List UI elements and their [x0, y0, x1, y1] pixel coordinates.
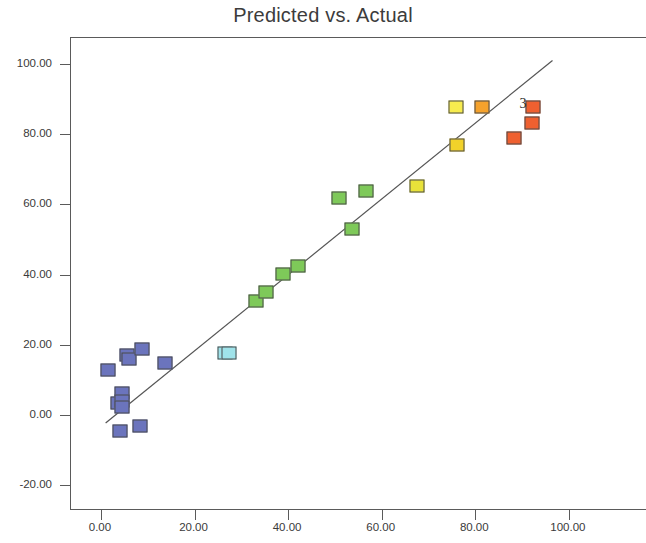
chart-root: Predicted vs. Actual -20.000.0020.0040.0…	[0, 0, 646, 543]
x-axis-tick	[475, 509, 476, 520]
y-axis-tick-label: -20.00	[19, 478, 52, 490]
data-point-marker[interactable]	[158, 356, 173, 369]
plot-area: 3	[70, 37, 646, 510]
data-point-marker[interactable]	[221, 347, 236, 360]
y-axis-tick	[60, 204, 71, 205]
data-point-marker[interactable]	[134, 342, 149, 355]
x-axis-tick	[382, 509, 383, 520]
x-axis-tick-label: 60.00	[366, 521, 395, 533]
data-point-marker[interactable]	[291, 260, 306, 273]
y-axis-tick	[60, 485, 71, 486]
data-point-marker[interactable]	[259, 286, 274, 299]
y-axis-tick	[60, 345, 71, 346]
y-axis-tick-label: 20.00	[23, 338, 52, 350]
data-point-marker[interactable]	[524, 116, 539, 129]
y-axis-tick	[60, 64, 71, 65]
y-axis-tick-label: 0.00	[30, 408, 52, 420]
x-axis-labels: 0.0020.0040.0060.0080.00100.00	[70, 521, 646, 541]
x-axis-tick-label: 0.00	[89, 521, 111, 533]
y-axis-tick-label: 80.00	[23, 127, 52, 139]
y-axis-tick	[60, 275, 71, 276]
regression-line	[71, 38, 646, 511]
data-point-marker[interactable]	[275, 267, 290, 280]
data-point-marker[interactable]	[331, 191, 346, 204]
data-point-marker[interactable]	[449, 100, 464, 113]
data-point-marker[interactable]	[410, 180, 425, 193]
chart-title: Predicted vs. Actual	[0, 4, 646, 27]
x-axis-tick	[101, 509, 102, 520]
y-axis-tick	[60, 134, 71, 135]
y-axis-tick	[60, 415, 71, 416]
y-axis-labels: -20.000.0020.0040.0060.0080.00100.00	[0, 37, 66, 510]
data-point-marker[interactable]	[344, 222, 359, 235]
data-point-marker[interactable]	[506, 132, 521, 145]
x-axis-tick	[569, 509, 570, 520]
plot-inner: 3	[71, 38, 646, 509]
x-axis-tick	[195, 509, 196, 520]
data-point-marker[interactable]	[474, 100, 489, 113]
data-point-marker[interactable]	[100, 363, 115, 376]
x-axis-tick-label: 100.00	[550, 521, 585, 533]
x-axis-tick-label: 40.00	[273, 521, 302, 533]
y-axis-tick-label: 60.00	[23, 197, 52, 209]
data-point-marker[interactable]	[114, 401, 129, 414]
x-axis-tick-label: 20.00	[179, 521, 208, 533]
x-axis-tick	[288, 509, 289, 520]
data-point-marker[interactable]	[133, 419, 148, 432]
data-point-marker[interactable]	[358, 184, 373, 197]
data-point-marker[interactable]	[525, 100, 540, 113]
data-point-marker[interactable]	[112, 424, 127, 437]
x-axis-tick-label: 80.00	[460, 521, 489, 533]
data-point-marker[interactable]	[449, 139, 464, 152]
y-axis-tick-label: 100.00	[17, 57, 52, 69]
y-axis-tick-label: 40.00	[23, 268, 52, 280]
point-annotation-label: 3	[520, 96, 527, 112]
